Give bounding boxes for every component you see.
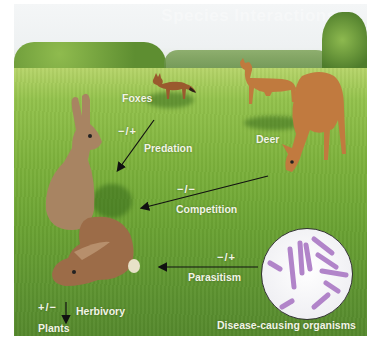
label-parasitism: Parasitism [188,271,241,283]
competition-sign: −/− [177,183,196,195]
label-plants: Plants [38,322,70,334]
parasitism-sign: −/+ [217,251,236,263]
label-predation: Predation [144,142,192,154]
predation-sign: −/+ [118,125,137,137]
ecosystem-illustration: Species Interactions [14,4,367,336]
disease-organism-bubble [261,228,353,320]
label-deer: Deer [256,133,279,145]
label-herbivory: Herbivory [76,305,125,317]
herbivory-sign: +/− [38,301,57,313]
bacteria-icon [262,229,352,319]
label-competition: Competition [176,203,237,215]
label-disease-causing-organisms: Disease-causing organisms [217,319,356,331]
label-foxes: Foxes [122,92,152,104]
